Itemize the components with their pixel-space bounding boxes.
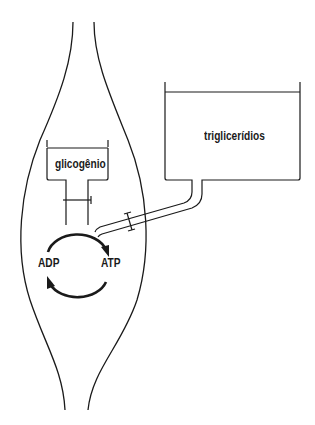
glycogen-reservoir — [47, 140, 108, 225]
diagram-canvas — [0, 0, 315, 425]
cell-left-wall — [21, 22, 73, 410]
triglyceride-valve — [127, 213, 132, 230]
triglyceride-reservoir — [95, 82, 300, 237]
glycogen-label: glicogênio — [55, 156, 106, 171]
adp-label: ADP — [38, 255, 59, 270]
atp-label: ATP — [101, 255, 121, 270]
arrow-adp-to-atp — [48, 235, 106, 252]
triglycerides-label: triglicerídios — [204, 128, 265, 143]
arrow-atp-to-adp — [50, 282, 106, 297]
